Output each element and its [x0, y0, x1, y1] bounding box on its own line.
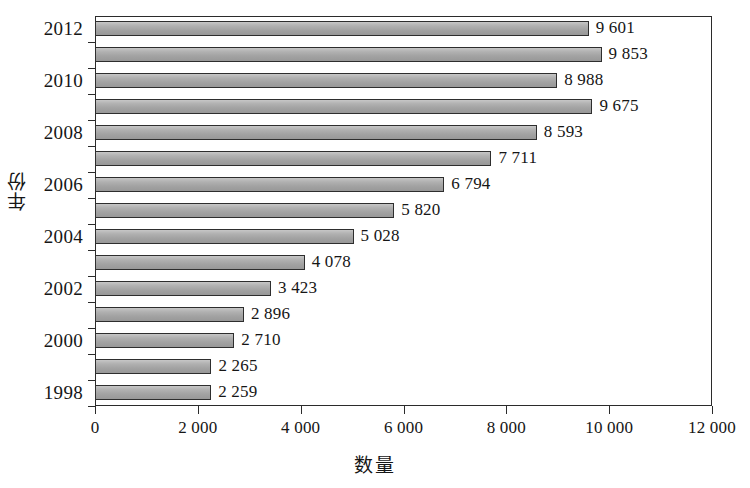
y-axis-label-2004: 2004	[44, 226, 83, 248]
bar-value-label-2008: 8 593	[544, 119, 583, 145]
y-axis-label-2012: 2012	[44, 18, 83, 40]
bar-row: 8 593	[95, 120, 712, 146]
bar-row: 2 265	[95, 354, 712, 380]
bar-value-label-2005: 5 820	[401, 197, 440, 223]
bar-2009	[95, 99, 592, 114]
x-axis-tick-layer: 02 0004 0006 0008 00010 00012 000	[95, 406, 712, 418]
bar-chart-figure: 9 6019 8538 9889 6758 5937 7116 7945 820…	[0, 0, 750, 488]
bar-1998	[95, 385, 211, 400]
y-axis-label-2008: 2008	[44, 122, 83, 144]
bar-value-label-2007: 7 711	[498, 145, 537, 171]
x-axis-tick	[404, 406, 405, 414]
bar-1999	[95, 359, 211, 374]
bar-row: 6 794	[95, 172, 712, 198]
y-axis-tick	[88, 406, 95, 407]
bar-2000	[95, 333, 234, 348]
x-axis-label-12000: 12 000	[688, 418, 736, 438]
bar-2006	[95, 177, 444, 192]
x-axis-tick	[712, 406, 713, 414]
bar-2011	[95, 47, 602, 62]
bar-2005	[95, 203, 394, 218]
x-axis-tick	[609, 406, 610, 414]
bar-row: 2 896	[95, 302, 712, 328]
x-axis-label-6000: 6 000	[384, 418, 423, 438]
bar-row: 2 259	[95, 380, 712, 406]
bar-value-label-2003: 4 078	[312, 249, 351, 275]
y-axis-tick	[88, 380, 95, 381]
y-axis-label-1998: 1998	[44, 382, 83, 404]
y-axis-tick	[88, 354, 95, 355]
bar-row: 9 853	[95, 42, 712, 68]
y-axis-tick	[88, 120, 95, 121]
bar-2003	[95, 255, 305, 270]
y-axis-tick-layer: 20122010200820062004200220001998	[0, 16, 95, 406]
bar-row: 8 988	[95, 68, 712, 94]
y-axis-label-2010: 2010	[44, 70, 83, 92]
bar-value-label-2012: 9 601	[596, 15, 635, 41]
bar-value-label-2009: 9 675	[599, 93, 638, 119]
x-axis-label-4000: 4 000	[281, 418, 320, 438]
y-axis-tick	[88, 250, 95, 251]
y-axis-tick	[88, 302, 95, 303]
bar-row: 3 423	[95, 276, 712, 302]
x-axis-label-8000: 8 000	[487, 418, 526, 438]
x-axis-label-2000: 2 000	[178, 418, 217, 438]
y-axis-tick	[88, 42, 95, 43]
bars-layer: 9 6019 8538 9889 6758 5937 7116 7945 820…	[95, 16, 712, 406]
bar-2010	[95, 73, 557, 88]
bar-row: 4 078	[95, 250, 712, 276]
x-axis-label-0: 0	[91, 418, 100, 438]
bar-2012	[95, 21, 589, 36]
y-axis-tick	[88, 328, 95, 329]
x-axis-label-10000: 10 000	[585, 418, 633, 438]
bar-value-label-2002: 3 423	[278, 275, 317, 301]
bar-2001	[95, 307, 244, 322]
y-axis-tick	[88, 224, 95, 225]
bar-value-label-1999: 2 265	[218, 353, 257, 379]
bar-row: 2 710	[95, 328, 712, 354]
y-axis-tick	[88, 68, 95, 69]
y-axis-label-2006: 2006	[44, 174, 83, 196]
bar-row: 9 601	[95, 16, 712, 42]
y-axis-label-2000: 2000	[44, 330, 83, 352]
bar-row: 5 820	[95, 198, 712, 224]
bar-row: 5 028	[95, 224, 712, 250]
bar-row: 7 711	[95, 146, 712, 172]
x-axis-tick	[95, 406, 96, 414]
bar-row: 9 675	[95, 94, 712, 120]
bar-2002	[95, 281, 271, 296]
y-axis-tick	[88, 146, 95, 147]
x-axis-tick	[198, 406, 199, 414]
bar-value-label-2004: 5 028	[361, 223, 400, 249]
bar-value-label-2006: 6 794	[451, 171, 490, 197]
x-axis-tick	[301, 406, 302, 414]
y-axis-title: 年份	[6, 171, 34, 211]
y-axis-tick	[88, 172, 95, 173]
bar-value-label-2000: 2 710	[241, 327, 280, 353]
bar-2008	[95, 125, 537, 140]
x-axis-tick	[506, 406, 507, 414]
bar-value-label-2011: 9 853	[609, 41, 648, 67]
y-axis-tick	[88, 276, 95, 277]
y-axis-tick	[88, 94, 95, 95]
bar-2004	[95, 229, 354, 244]
bar-value-label-2001: 2 896	[251, 301, 290, 327]
y-axis-tick	[88, 198, 95, 199]
bar-value-label-1998: 2 259	[218, 379, 257, 405]
bar-2007	[95, 151, 491, 166]
y-axis-label-2002: 2002	[44, 278, 83, 300]
x-axis-title: 数量	[0, 450, 750, 477]
bar-value-label-2010: 8 988	[564, 67, 603, 93]
